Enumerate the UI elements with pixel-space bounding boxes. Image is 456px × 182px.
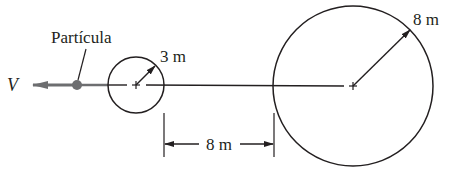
particle-leader-line [78, 49, 86, 80]
gap-distance-label: 8 m [206, 135, 232, 154]
velocity-label: V [7, 75, 20, 95]
large-radius-label: 8 m [413, 10, 439, 29]
two-circles-diagram: Partícula V 3 m 8 m 8 m [0, 0, 456, 182]
small-radius-label: 3 m [160, 47, 186, 66]
particle-label: Partícula [51, 28, 112, 47]
large-radius-arrow [353, 30, 410, 86]
center-line-between [146, 85, 344, 86]
particle-dot [72, 80, 82, 90]
small-radius-arrow [136, 66, 155, 85]
